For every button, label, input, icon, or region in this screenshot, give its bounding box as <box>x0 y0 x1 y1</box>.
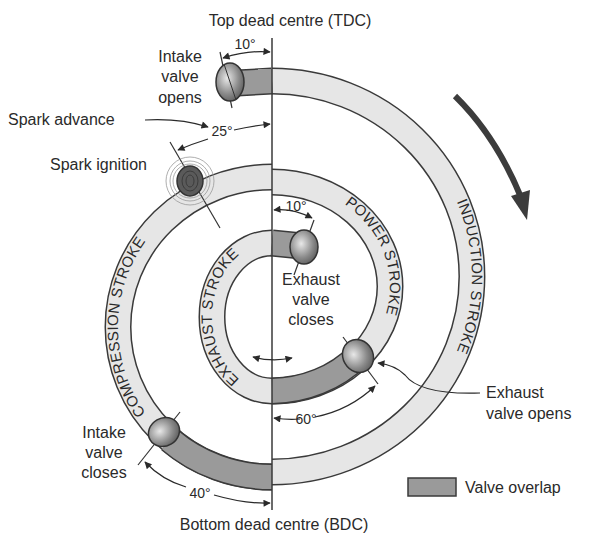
exhaust-closes-label-line2: valve <box>292 291 329 308</box>
spark-icon <box>177 166 203 196</box>
exhaust-closes-label-line3: closes <box>288 311 333 328</box>
intake-opens-label-line2: valve <box>161 68 198 85</box>
spark-advance-label: Spark advance <box>8 111 115 128</box>
legend: Valve overlap <box>408 478 561 496</box>
exhaust-opens-label-line1: Exhaust <box>486 384 544 401</box>
valve-icon <box>290 230 318 264</box>
intake-closes-label-line1: Intake <box>82 424 126 441</box>
legend-label-valve-overlap: Valve overlap <box>465 479 561 496</box>
intake-closes-angle: 40° <box>189 485 210 501</box>
intake-opens-angle: 10° <box>234 36 255 52</box>
spark-advance-angle: 25° <box>211 123 232 139</box>
spark-ignition-label: Spark ignition <box>50 156 147 173</box>
bdc-title: Bottom dead centre (BDC) <box>180 516 369 533</box>
exhaust-closes-label-line1: Exhaust <box>282 271 340 288</box>
legend-swatch-valve-overlap <box>408 478 456 496</box>
intake-closes-label-line3: closes <box>81 464 126 481</box>
intake-closes-label-line2: valve <box>85 444 122 461</box>
tdc-title: Top dead centre (TDC) <box>209 12 372 29</box>
intake-opens-label-line1: Intake <box>158 48 202 65</box>
intake-opens-label-line3: opens <box>158 89 202 106</box>
exhaust-opens-label-line2: valve opens <box>486 405 571 422</box>
four-stroke-valve-timing-diagram: INDUCTION STROKE COMPRESSION STROKE POWE… <box>0 0 605 542</box>
exhaust-closes-angle: 10° <box>285 198 306 214</box>
exhaust-opens-angle: 60° <box>295 411 316 427</box>
